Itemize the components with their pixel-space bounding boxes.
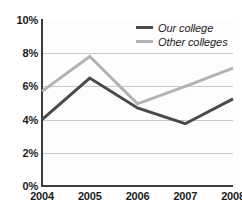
y-axis-tick-label: 4% (2, 114, 38, 126)
x-axis-tick-label: 2007 (173, 190, 197, 202)
legend-item[interactable]: Our college (136, 21, 228, 34)
legend-label: Our college (158, 22, 213, 34)
series-line (42, 57, 233, 104)
y-axis-tick-labels: 0%2%4%6%8%10% (0, 20, 38, 186)
y-axis-tick-label: 2% (2, 147, 38, 159)
y-axis-tick-label: 8% (2, 47, 38, 59)
x-axis-tick-label: 2006 (126, 190, 150, 202)
legend-swatch-icon (136, 40, 153, 43)
legend: Our collegeOther colleges (136, 21, 228, 48)
legend-swatch-icon (136, 26, 153, 29)
x-axis-tick-label: 2005 (78, 190, 102, 202)
x-axis-tick-labels: 20042005200620072008 (42, 190, 233, 212)
line-chart: 0%2%4%6%8%10% 20042005200620072008 Our c… (0, 0, 242, 220)
legend-label: Other colleges (158, 36, 228, 48)
series-line (42, 78, 233, 124)
y-axis-tick-label: 6% (2, 80, 38, 92)
y-axis-tick-label: 10% (2, 14, 38, 26)
legend-item[interactable]: Other colleges (136, 35, 228, 48)
x-axis-tick-label: 2004 (30, 190, 54, 202)
x-axis-tick-label: 2008 (221, 190, 242, 202)
